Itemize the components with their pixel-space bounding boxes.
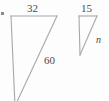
triangle-small-hypotenuse: [80, 16, 97, 55]
label-small-hypotenuse: n: [96, 34, 101, 45]
triangle-large-left-edge: [11, 16, 15, 101]
triangle-small-left-edge: [79, 16, 80, 55]
similar-triangles-figure: 32 60 15 n: [0, 0, 109, 101]
triangles-svg: [0, 0, 109, 101]
label-large-hypotenuse: 60: [44, 55, 55, 66]
label-small-top-edge: 15: [81, 3, 92, 14]
label-large-top-edge: 32: [27, 3, 38, 14]
triangle-small-group: [79, 16, 97, 55]
